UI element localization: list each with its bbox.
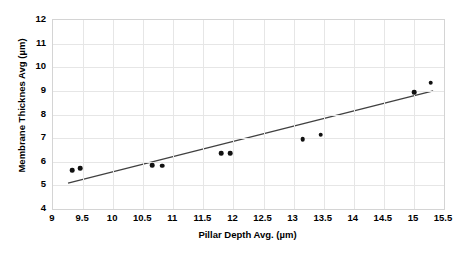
- data-point: [412, 90, 417, 95]
- y-axis-tick-label: 12: [24, 14, 46, 24]
- x-axis-tick-label: 11.5: [193, 212, 211, 224]
- data-point: [78, 166, 83, 171]
- x-axis-tick-label: 11: [167, 212, 177, 224]
- gridline-horizontal: [53, 185, 444, 186]
- x-axis-tick-label: 10.5: [133, 212, 152, 224]
- data-point: [318, 132, 323, 137]
- x-axis-tick-label: 10: [107, 212, 118, 224]
- gridline-horizontal: [53, 115, 444, 116]
- gridline-vertical: [264, 20, 265, 209]
- gridline-vertical: [143, 20, 144, 209]
- plot-inner: [53, 20, 444, 209]
- y-axis-tick-label: 9: [24, 85, 46, 95]
- gridline-horizontal: [53, 138, 444, 139]
- gridline-horizontal: [53, 162, 444, 163]
- gridline-horizontal: [53, 91, 444, 92]
- data-point: [150, 163, 155, 168]
- gridline-vertical: [233, 20, 234, 209]
- x-axis-title: Pillar Depth Avg. (µm): [52, 229, 443, 240]
- x-axis-tick-label: 14.5: [374, 212, 393, 224]
- gridline-vertical: [324, 20, 325, 209]
- y-axis-tick-label: 4: [24, 203, 46, 213]
- x-axis-tick-label: 13: [287, 212, 298, 224]
- x-axis-tick-label: 15: [408, 212, 419, 224]
- x-axis-tick-labels: 99.51010.51111.51212.51313.51414.51515.5: [52, 212, 443, 226]
- gridline-vertical: [414, 20, 415, 209]
- gridline-horizontal: [53, 67, 444, 68]
- x-axis-tick-label: 9.5: [75, 212, 88, 224]
- x-axis-tick-label: 12: [227, 212, 238, 224]
- x-axis-tick-label: 12.5: [253, 212, 272, 224]
- x-axis-tick-label: 15.5: [434, 212, 453, 224]
- gridline-vertical: [173, 20, 174, 209]
- gridline-horizontal: [53, 44, 444, 45]
- y-axis-tick-label: 8: [24, 109, 46, 119]
- data-point: [428, 80, 433, 85]
- gridline-vertical: [384, 20, 385, 209]
- data-point: [219, 151, 224, 156]
- gridline-vertical: [354, 20, 355, 209]
- y-axis-tick-label: 5: [24, 179, 46, 189]
- x-axis-tick-label: 13.5: [313, 212, 332, 224]
- y-axis-tick-label: 10: [24, 61, 46, 71]
- y-axis-tick-label: 6: [24, 156, 46, 166]
- scatter-chart: Membrane Thicknes Avg (µm) 456789101112 …: [0, 0, 469, 253]
- x-axis-tick-label: 14: [347, 212, 358, 224]
- y-axis-tick-label: 7: [24, 132, 46, 142]
- gridline-vertical: [113, 20, 114, 209]
- gridline-vertical: [294, 20, 295, 209]
- y-axis-tick-label: 11: [24, 38, 46, 48]
- data-point: [300, 137, 305, 142]
- plot-area: [52, 19, 445, 210]
- trendline-segment: [68, 91, 433, 183]
- data-point: [70, 168, 75, 173]
- gridline-vertical: [83, 20, 84, 209]
- data-point: [228, 151, 233, 156]
- x-axis-tick-label: 9: [49, 212, 54, 224]
- data-point: [160, 163, 165, 168]
- gridline-vertical: [203, 20, 204, 209]
- y-axis-tick-labels: 456789101112: [24, 0, 46, 253]
